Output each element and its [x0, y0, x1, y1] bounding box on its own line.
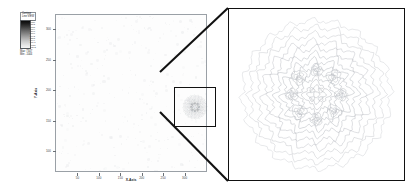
y-tick-mark: [53, 151, 56, 152]
y-tick-label: 150: [46, 119, 51, 123]
main-plot-panel: Contour Line VIEW 7710703663625688501443…: [0, 0, 222, 189]
y-tick-label: 100: [46, 149, 51, 153]
region-of-interest-box[interactable]: [174, 87, 216, 127]
magnified-inset-panel[interactable]: [228, 8, 405, 181]
y-tick-label: 250: [46, 58, 51, 62]
y-axis-title: Y-Axis: [34, 88, 38, 98]
x-tick-label: 250: [161, 176, 166, 180]
colorbar-tick-label: -1342: [30, 46, 36, 48]
main-plot-frame: 50100150200250300 300250200150100: [55, 14, 207, 172]
y-tick-label: 300: [46, 27, 51, 31]
x-tick-label: 150: [118, 176, 123, 180]
x-tick-label: 300: [182, 176, 187, 180]
colorbar-legend: Contour Line VIEW 7710703663625688501443…: [18, 12, 50, 64]
y-tick-mark: [53, 90, 56, 91]
y-tick-mark: [53, 60, 56, 61]
x-tick-label: 200: [139, 176, 144, 180]
colorbar-minmax-labels: Max: 7347 Min: -1044: [20, 50, 32, 56]
roi-contour-blob: [182, 94, 209, 120]
figure-root: Contour Line VIEW 7710703663625688501443…: [0, 0, 414, 189]
x-tick-label: 50: [76, 176, 79, 180]
inset-contour-lines: [229, 9, 404, 180]
y-tick-mark: [53, 29, 56, 30]
x-axis-title: X-Axis: [126, 178, 137, 182]
x-tick-label: 100: [96, 176, 101, 180]
y-tick-mark: [53, 121, 56, 122]
y-tick-label: 200: [46, 88, 51, 92]
